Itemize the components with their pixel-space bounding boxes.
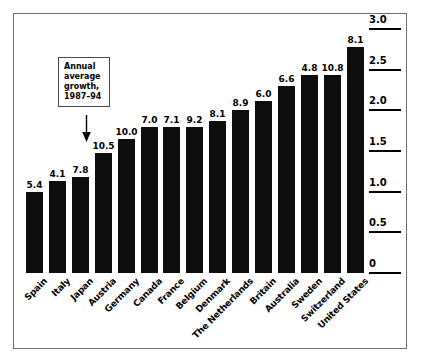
bar-value-label: 6.6 xyxy=(279,74,295,84)
y-tick-line xyxy=(369,109,401,111)
bar-value-label: 8.1 xyxy=(348,35,364,45)
bar-rect xyxy=(163,127,180,273)
bar-value-label: 7.0 xyxy=(142,115,158,125)
annotation-line-3: growth, xyxy=(64,82,105,92)
bar-value-label: 10.8 xyxy=(321,63,343,73)
category-label-spain: Spain xyxy=(22,276,49,303)
annotation-line-2: average xyxy=(64,72,105,82)
y-tick-label: 0.5 xyxy=(369,217,401,228)
y-tick-label: 2.0 xyxy=(369,95,401,106)
bar-chart-figure: 5.44.17.810.510.07.07.19.28.18.96.06.64.… xyxy=(0,0,421,363)
y-tick-line xyxy=(369,231,401,233)
bar-value-label: 4.8 xyxy=(302,63,318,73)
y-tick-label: 1.5 xyxy=(369,136,401,147)
bar-rect xyxy=(118,139,135,273)
plot-area: 5.44.17.810.510.07.07.19.28.18.96.06.64.… xyxy=(0,0,421,363)
y-axis: 00.51.01.52.02.53.0 xyxy=(369,0,407,363)
bar-value-label: 9.2 xyxy=(187,115,203,125)
bar-rect xyxy=(278,86,295,273)
bar-value-label: 8.9 xyxy=(233,98,249,108)
bar-value-label: 7.8 xyxy=(73,165,89,175)
y-tick-line xyxy=(369,272,401,274)
bar-rect xyxy=(324,75,341,273)
bar-value-label: 4.1 xyxy=(50,169,66,179)
bar-rect xyxy=(49,181,66,273)
annotation-callout: Annual average growth, 1987–94 xyxy=(58,57,110,107)
bar-rect xyxy=(347,47,364,273)
y-tick-label: 3.0 xyxy=(369,14,401,25)
bar-value-label: 5.4 xyxy=(27,180,43,190)
annotation-line-4: 1987–94 xyxy=(64,92,105,102)
annotation-line-1: Annual xyxy=(64,62,105,72)
bar-rect xyxy=(232,110,249,273)
bar-rect xyxy=(26,192,43,273)
bar-value-label: 8.1 xyxy=(210,109,226,119)
bar-rect xyxy=(209,121,226,273)
y-tick-line xyxy=(369,191,401,193)
annotation-arrow-icon xyxy=(81,115,92,143)
bar-value-label: 6.0 xyxy=(256,89,272,99)
y-tick-line xyxy=(369,28,401,30)
y-tick-label: 0 xyxy=(369,258,401,269)
bar-rect xyxy=(95,153,112,273)
bar-rect xyxy=(72,177,89,273)
y-tick-line xyxy=(369,150,401,152)
y-tick-label: 1.0 xyxy=(369,177,401,188)
bar-value-label: 7.1 xyxy=(164,115,180,125)
y-tick-label: 2.5 xyxy=(369,55,401,66)
bar-value-label: 10.5 xyxy=(92,141,114,151)
bar-rect xyxy=(186,127,203,273)
bar-rect xyxy=(301,75,318,273)
bar-rect xyxy=(255,101,272,273)
bar-value-label: 10.0 xyxy=(115,127,137,137)
bar-rect xyxy=(141,127,158,273)
y-tick-line xyxy=(369,69,401,71)
